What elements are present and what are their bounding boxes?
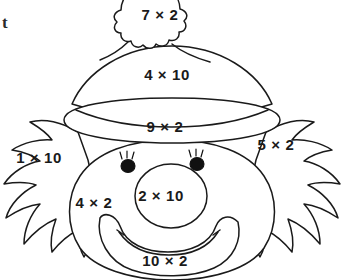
clown-illustration: 7 × 2 4 × 10 9 × 2 1 × 10 5 × 2 4 × 2 2 … xyxy=(0,0,344,280)
problem-label-mouth: 10 × 2 xyxy=(142,252,188,269)
problem-label-hat-brim: 9 × 2 xyxy=(147,118,184,135)
problem-label-pompom: 7 × 2 xyxy=(142,6,179,23)
problem-label-hair-right: 5 × 2 xyxy=(258,136,295,153)
problem-label-hair-left: 1 × 10 xyxy=(16,149,62,166)
problem-label-cheek-left: 4 × 2 xyxy=(76,194,113,211)
worksheet-canvas: t xyxy=(0,0,344,280)
problem-label-nose: 2 × 10 xyxy=(138,187,184,204)
right-eye[interactable] xyxy=(190,158,204,171)
left-eye[interactable] xyxy=(121,160,135,173)
problem-label-hat-dome: 4 × 10 xyxy=(144,66,190,83)
